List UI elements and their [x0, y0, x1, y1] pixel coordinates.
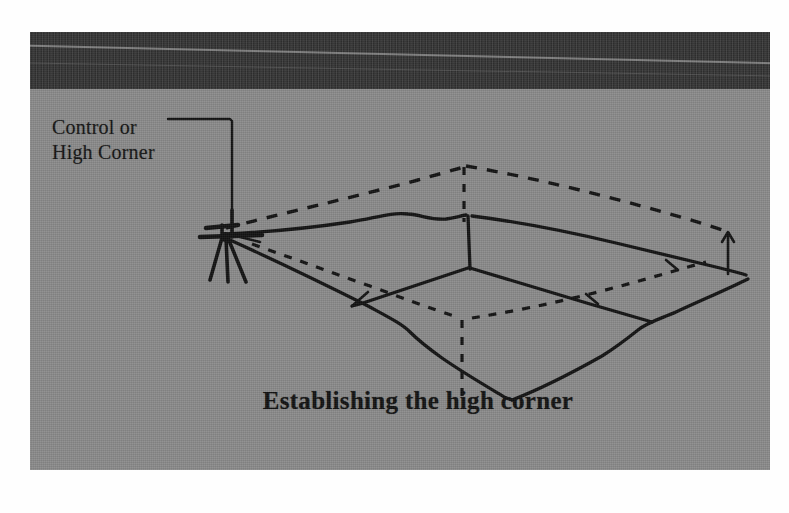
original-ground-dashed-back-edge [226, 166, 728, 232]
pit-rim-upper-left-edge [226, 214, 466, 234]
callout-label: Control or High Corner [52, 115, 155, 165]
pit-rim-upper-right-edge [472, 216, 746, 275]
scanned-figure-panel: Control or High Corner Establishing the … [30, 32, 770, 470]
callout-label-line-1: Control or [52, 115, 155, 140]
pit-back-corner-vertical-edge [468, 216, 470, 269]
figure-caption-text: Establishing the high corner [227, 387, 574, 414]
figure-caption: Establishing the high corner [30, 387, 770, 415]
pit-outer-right-slope [512, 279, 748, 400]
hidden-floor-dashed-right-edge [472, 262, 706, 318]
pit-floor-right-edge [470, 268, 652, 322]
right-side-floor-tick-marks [586, 260, 678, 304]
pit-outer-left-slope [230, 240, 506, 398]
callout-leader-line [168, 119, 232, 232]
screenshot-root: Control or High Corner Establishing the … [0, 0, 789, 513]
callout-label-line-2: High Corner [52, 140, 155, 165]
